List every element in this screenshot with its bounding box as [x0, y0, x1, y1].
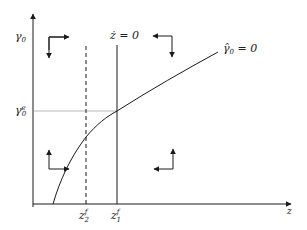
equilibrium-gamma-label: γe0 — [15, 104, 27, 118]
z-dot-zero-label: ż = 0 — [109, 29, 139, 42]
direction-arrows-bottom-left — [49, 150, 69, 169]
y-axis-label: γ0 — [15, 30, 27, 44]
direction-arrows-bottom-right — [154, 149, 173, 169]
phase-diagram: γ0 γe0 ż = 0 γ̂0 = 0 zf2 zf1 z — [0, 0, 307, 230]
x-axis-label: z — [286, 206, 292, 216]
gamma-hat-zero-label: γ̂0 = 0 — [223, 42, 257, 56]
direction-arrows-top-left — [49, 37, 69, 58]
direction-arrows-top-right — [153, 36, 172, 57]
z2f-label: zf2 — [78, 208, 89, 224]
gamma-hat-zero-locus — [53, 52, 218, 204]
z1f-label: zf1 — [110, 208, 121, 224]
